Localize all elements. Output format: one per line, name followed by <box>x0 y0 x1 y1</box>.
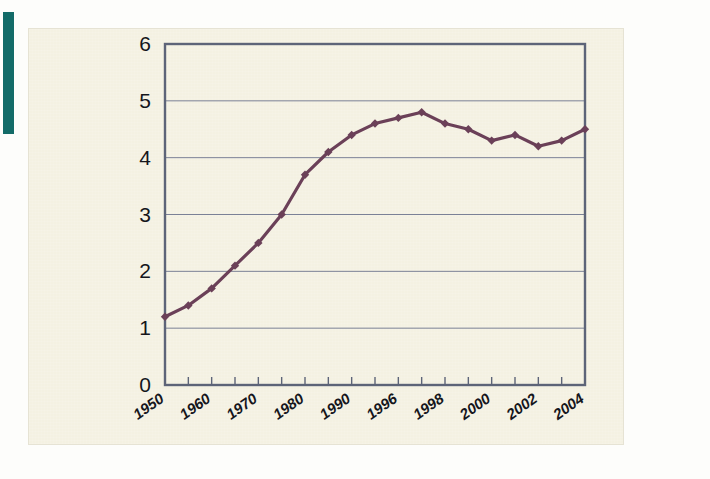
x-tick-label: 1960 <box>176 389 214 422</box>
x-tick-label: 2004 <box>549 389 587 423</box>
x-tick-label: 2002 <box>502 389 540 423</box>
x-tick-label: 1980 <box>270 389 308 422</box>
y-tick-label: 2 <box>139 259 151 282</box>
y-tick-label: 0 <box>139 373 151 396</box>
data-point-marker <box>394 114 402 122</box>
accent-bar <box>3 12 14 134</box>
line-chart: 0123456 19501960197019801990199619982000… <box>28 28 622 443</box>
y-tick-label: 5 <box>139 89 151 112</box>
x-tick-label: 1996 <box>363 389 401 422</box>
x-tick-label: 1990 <box>316 389 354 422</box>
y-tick-label: 3 <box>139 203 151 226</box>
x-axis-tick-labels: 1950196019701980199019961998200020022004 <box>130 389 588 423</box>
x-tick-label: 2000 <box>455 389 493 423</box>
x-tick-label: 1970 <box>223 389 261 422</box>
y-tick-label: 1 <box>139 316 151 339</box>
gridlines <box>165 101 585 328</box>
y-axis-tick-labels: 0123456 <box>139 32 151 396</box>
page-root: 0123456 19501960197019801990199619982000… <box>0 0 710 479</box>
x-axis-ticks <box>188 377 561 385</box>
y-tick-label: 4 <box>139 146 151 169</box>
x-tick-label: 1998 <box>410 389 448 422</box>
y-tick-label: 6 <box>139 32 151 55</box>
